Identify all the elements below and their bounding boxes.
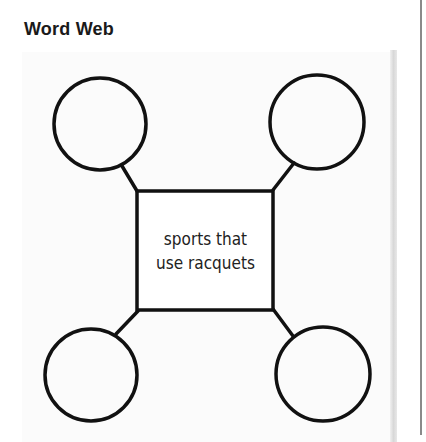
connector-top-left xyxy=(122,166,137,191)
node-circle-bottom-left[interactable] xyxy=(45,329,137,421)
connector-bottom-left xyxy=(116,311,138,334)
center-topic-line2: use racquets xyxy=(156,251,255,275)
connector-bottom-right xyxy=(273,309,293,336)
center-topic-line1: sports that xyxy=(164,227,247,251)
connector-top-right xyxy=(273,163,294,190)
node-circle-bottom-right[interactable] xyxy=(276,327,370,421)
center-topic: sports that use racquets xyxy=(146,193,266,309)
node-circle-top-right[interactable] xyxy=(270,75,364,169)
node-circle-top-left[interactable] xyxy=(54,78,146,170)
